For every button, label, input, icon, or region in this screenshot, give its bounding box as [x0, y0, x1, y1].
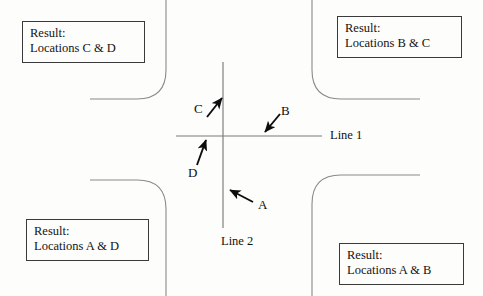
- arrow-b: [265, 114, 280, 132]
- result-detail: Locations A & B: [347, 263, 456, 278]
- result-heading: Result:: [345, 21, 454, 36]
- arrow-label-a: A: [258, 197, 267, 213]
- arrow-c: [207, 98, 222, 117]
- arrow-label-d: D: [188, 165, 197, 181]
- result-detail: Locations C & D: [30, 41, 137, 56]
- arrow-d: [197, 140, 206, 165]
- arrow-a: [230, 190, 253, 202]
- line-1-label: Line 1: [330, 128, 362, 143]
- result-heading: Result:: [30, 26, 137, 41]
- result-detail: Locations B & C: [345, 36, 454, 51]
- result-heading: Result:: [347, 248, 456, 263]
- result-box-ad: Result: Locations A & D: [26, 219, 149, 261]
- line-2-label: Line 2: [221, 234, 253, 249]
- diagram-canvas: C B D A Line 1 Line 2 Result: Locations …: [0, 0, 483, 296]
- result-box-ab: Result: Locations A & B: [339, 243, 464, 285]
- arrow-label-c: C: [194, 101, 203, 117]
- result-heading: Result:: [34, 224, 141, 239]
- arrow-label-b: B: [281, 103, 290, 119]
- result-box-cd: Result: Locations C & D: [22, 21, 145, 63]
- result-box-bc: Result: Locations B & C: [337, 16, 462, 58]
- result-detail: Locations A & D: [34, 239, 141, 254]
